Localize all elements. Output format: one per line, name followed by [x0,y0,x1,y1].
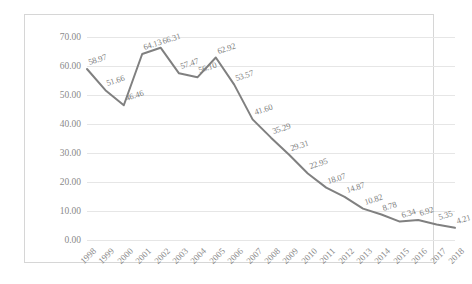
series-line [87,48,455,228]
gridline [87,240,455,241]
y-axis-tick-label: 0.00 [35,235,81,245]
y-axis-tick-label: 40.00 [35,119,81,129]
chart-plot-area: 70.0060.0050.0040.0030.0020.0010.000.00 … [87,37,455,240]
y-axis-tick-label: 10.00 [35,206,81,216]
y-axis-tick-label: 30.00 [35,148,81,158]
chart-plot-frame: 70.0060.0050.0040.0030.0020.0010.000.00 … [24,14,434,263]
y-axis-tick-label: 20.00 [35,177,81,187]
data-label: 4.21 [455,212,472,226]
y-axis-tick-label: 70.00 [35,32,81,42]
y-axis-tick-label: 50.00 [35,90,81,100]
y-axis-tick-label: 60.00 [35,61,81,71]
